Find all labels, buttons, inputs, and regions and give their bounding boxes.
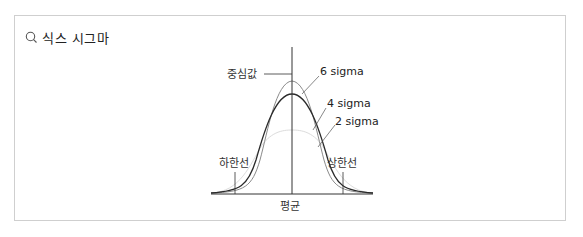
upper-limit-label: 상한선 [327, 157, 357, 170]
mean-label: 평균 [280, 200, 300, 213]
lower-limit-label: 하한선 [219, 156, 249, 170]
center-value-label: 중심값 [227, 68, 257, 81]
two-sigma-label: 2 sigma [335, 115, 379, 128]
six-sigma-label: 6 sigma [320, 65, 364, 78]
six-sigma-leader [302, 76, 319, 94]
normal-distribution-diagram: 중심값 6 sigma 4 sigma 2 sigma 하한선 상한선 평균 [0, 0, 583, 237]
four-sigma-label: 4 sigma [327, 97, 371, 110]
